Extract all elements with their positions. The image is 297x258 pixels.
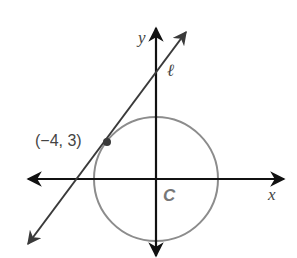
y-axis-label: y (136, 28, 146, 47)
point-label: (−4, 3) (35, 132, 82, 149)
coordinate-diagram: y x ℓ C (−4, 3) (0, 0, 297, 258)
circle-c-label: C (163, 186, 176, 205)
line-l-label: ℓ (167, 61, 174, 80)
x-axis-label: x (267, 185, 276, 204)
tangent-point (103, 138, 111, 146)
